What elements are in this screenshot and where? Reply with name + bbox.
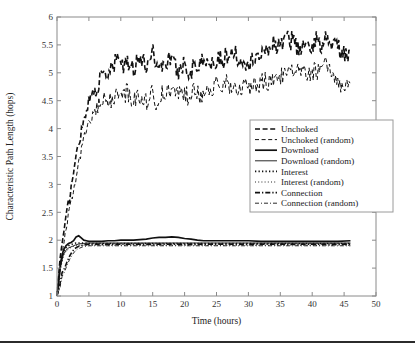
y-tick-label: 5 — [49, 68, 54, 78]
y-tick-label: 3 — [49, 180, 54, 190]
footer-divider — [0, 341, 415, 343]
legend-label[interactable]: Download — [281, 145, 319, 155]
legend-label[interactable]: Interest (random) — [281, 177, 344, 187]
legend-label[interactable]: Interest — [281, 167, 308, 177]
legend-label[interactable]: Connection — [281, 188, 323, 198]
series-line — [57, 245, 350, 296]
x-tick-label: 35 — [276, 299, 286, 309]
y-axis-title: Characteristic Path Length (hops) — [5, 93, 16, 221]
x-tick-label: 5 — [87, 299, 92, 309]
legend-label[interactable]: Download (random) — [281, 156, 354, 166]
chart-canvas: 0510152025303540455011.522.533.544.555.5… — [0, 0, 415, 349]
series-line — [57, 246, 350, 296]
x-tick-label: 30 — [244, 299, 254, 309]
y-tick-label: 2 — [49, 235, 54, 245]
x-tick-label: 0 — [55, 299, 60, 309]
x-tick-label: 40 — [308, 299, 318, 309]
y-tick-label: 5.5 — [42, 40, 54, 50]
y-tick-label: 2.5 — [42, 208, 54, 218]
x-tick-label: 45 — [340, 299, 350, 309]
series-line — [57, 244, 350, 296]
y-tick-label: 4.5 — [42, 96, 54, 106]
legend-label[interactable]: Unchoked (random) — [281, 135, 354, 145]
series-line — [57, 243, 350, 296]
x-tick-label: 25 — [212, 299, 222, 309]
y-tick-label: 4 — [49, 124, 54, 134]
series-line — [57, 243, 350, 296]
x-tick-label: 20 — [180, 299, 190, 309]
legend-label[interactable]: Unchoked — [281, 124, 318, 134]
chart-legend[interactable]: UnchokedUnchoked (random)DownloadDownloa… — [250, 120, 393, 212]
y-tick-label: 1.5 — [42, 263, 54, 273]
x-axis-title: Time (hours) — [192, 316, 242, 327]
x-tick-label: 50 — [372, 299, 382, 309]
y-tick-label: 1 — [49, 291, 54, 301]
y-tick-label: 6 — [49, 12, 54, 22]
y-tick-label: 3.5 — [42, 152, 54, 162]
x-tick-label: 10 — [116, 299, 126, 309]
legend-label[interactable]: Connection (random) — [281, 198, 358, 208]
x-tick-label: 15 — [148, 299, 158, 309]
figure-container: 0510152025303540455011.522.533.544.555.5… — [0, 0, 415, 349]
